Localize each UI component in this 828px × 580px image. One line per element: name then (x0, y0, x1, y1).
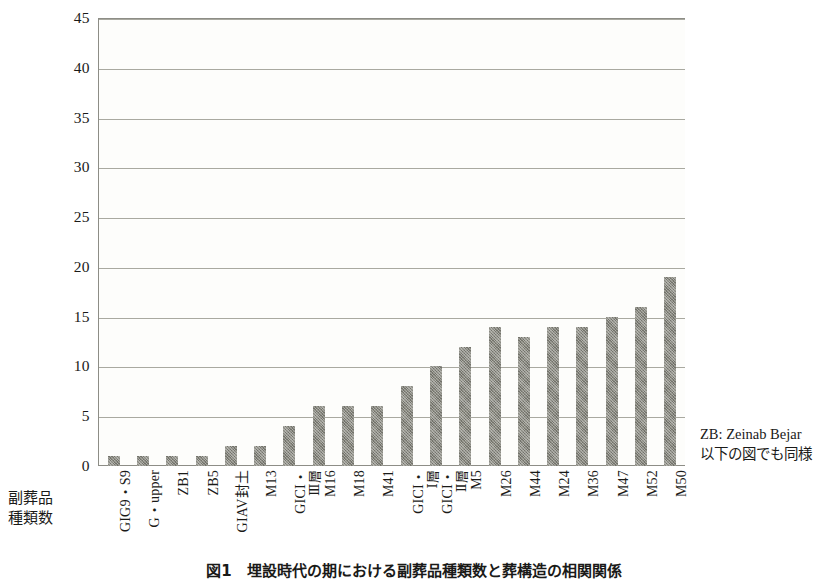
x-axis-label: M13 (265, 470, 279, 574)
bar-series (99, 18, 685, 466)
y-tick-label: 40 (48, 60, 90, 76)
bar (166, 456, 178, 466)
chart-note: ZB: Zeinab Bejar 以下の図でも同様 (700, 424, 826, 464)
x-axis-label: M18 (353, 470, 367, 574)
x-axis-label: M26 (500, 470, 514, 574)
x-axis-label-line1: GICI・ (411, 470, 426, 514)
bar (371, 406, 383, 466)
bar (225, 446, 237, 466)
y-tick-label: 10 (48, 358, 90, 374)
x-axis-label-line2: Ⅰ層 (426, 470, 440, 574)
y-axis-title-line1: 副葬品 (8, 488, 94, 508)
x-axis-label: M36 (587, 470, 601, 574)
y-tick-label: 15 (48, 309, 90, 325)
x-axis-label: ZB5 (207, 470, 221, 574)
y-tick-label: 0 (48, 458, 90, 474)
y-axis-ticks: 454035302520151050 (42, 18, 90, 466)
x-axis-label: GICI・Ⅰ層 (412, 470, 440, 574)
x-axis-label-line1: GICI・ (440, 470, 455, 514)
x-axis-label: M52 (646, 470, 660, 574)
x-axis-labels: GIG9・S9G・upperZB1ZB5GIAV封土M13GICI・Ⅲ層M16M… (99, 470, 685, 576)
x-axis-label: M16 (324, 470, 338, 574)
bar (635, 307, 647, 466)
bar (576, 327, 588, 466)
bar (459, 347, 471, 466)
chart-note-line2: 以下の図でも同様 (700, 444, 826, 464)
bar (606, 317, 618, 466)
bar (108, 456, 120, 466)
chart-note-line1: ZB: Zeinab Bejar (700, 426, 801, 442)
bar (518, 337, 530, 466)
x-axis-label-line2: Ⅱ層 (455, 470, 469, 574)
x-axis-label: M50 (675, 470, 689, 574)
x-axis-label: M41 (382, 470, 396, 574)
x-axis-label: GICI・Ⅱ層 (441, 470, 469, 574)
bar (489, 327, 501, 466)
y-axis-title-line2: 種類数 (8, 508, 94, 528)
y-tick-label: 35 (48, 110, 90, 126)
bar (664, 277, 676, 466)
x-axis-label: GIAV封土 (236, 470, 250, 574)
bar (401, 386, 413, 466)
x-axis-label: GIG9・S9 (119, 470, 133, 574)
bar (342, 406, 354, 466)
y-tick-label: 45 (48, 10, 90, 26)
x-axis-label: G・upper (148, 470, 162, 574)
y-axis-title: 副葬品 種類数 (8, 488, 94, 528)
bar (313, 406, 325, 466)
y-tick-label: 30 (48, 159, 90, 175)
bar (254, 446, 266, 466)
x-axis-label: M44 (529, 470, 543, 574)
x-axis-label: M5 (470, 470, 484, 574)
bar (283, 426, 295, 466)
bar (137, 456, 149, 466)
bar (430, 366, 442, 466)
bar (547, 327, 559, 466)
bar (196, 456, 208, 466)
x-axis-label-line2: Ⅲ層 (308, 470, 322, 574)
x-axis-label: ZB1 (177, 470, 191, 574)
y-tick-label: 20 (48, 259, 90, 275)
y-tick-label: 5 (48, 408, 90, 424)
y-tick-label: 25 (48, 209, 90, 225)
x-axis-label: GICI・Ⅲ層 (294, 470, 322, 574)
x-axis-label: M47 (617, 470, 631, 574)
x-axis-label: M24 (558, 470, 572, 574)
figure-caption: 図1 埋設時代の期における副葬品種類数と葬構造の相関関係 (0, 562, 828, 580)
